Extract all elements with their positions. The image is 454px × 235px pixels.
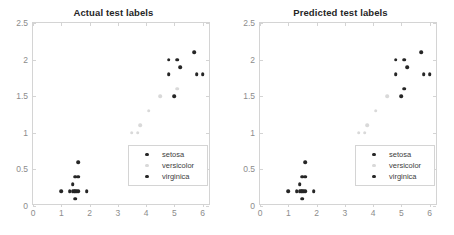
y-tick-mark (33, 169, 36, 170)
y-tick-mark-right (433, 96, 436, 97)
y-tick-label: 1 (250, 128, 255, 138)
data-point-virginica (419, 50, 423, 54)
legend-label: versicolor (387, 161, 421, 170)
y-tick-label: 2 (250, 55, 255, 65)
x-tick-label: 6 (200, 208, 205, 218)
data-point-virginica (195, 72, 199, 76)
data-point-setosa (74, 197, 78, 201)
data-point-virginica (399, 94, 403, 98)
data-point-virginica (172, 94, 176, 98)
y-tick-label: 2.5 (16, 18, 28, 28)
y-tick-label: 2 (23, 55, 28, 65)
y-tick-mark (33, 206, 36, 207)
y-tick-mark (260, 169, 263, 170)
x-tick-label: 2 (314, 208, 319, 218)
data-point-virginica (394, 72, 398, 76)
x-tick-label: 0 (31, 208, 36, 218)
legend[interactable]: setosaversicolorvirginica (128, 145, 208, 186)
x-tick-mark-top (373, 23, 374, 26)
data-point-setosa (303, 175, 307, 179)
y-tick-label: 0.5 (16, 164, 28, 174)
legend-label: setosa (387, 150, 411, 159)
data-point-setosa (286, 190, 290, 194)
data-point-setosa (76, 175, 80, 179)
x-tick-mark (174, 204, 175, 207)
panel-title-predicted: Predicted test labels (227, 7, 454, 18)
data-point-versicolor (357, 131, 361, 135)
x-tick-label: 0 (258, 208, 263, 218)
y-tick-mark-right (206, 206, 209, 207)
legend-dot-icon (145, 164, 149, 168)
x-tick-mark (288, 204, 289, 207)
legend-item-versicolor[interactable]: versicolor (134, 160, 202, 171)
x-tick-label: 3 (342, 208, 347, 218)
y-tick-mark-right (433, 206, 436, 207)
x-tick-mark (61, 204, 62, 207)
legend-marker-icon (361, 164, 387, 168)
y-tick-mark-right (206, 60, 209, 61)
y-tick-label: 0 (23, 201, 28, 211)
x-tick-label: 4 (144, 208, 149, 218)
data-point-versicolor (385, 94, 389, 98)
y-tick-mark-right (206, 23, 209, 24)
data-point-virginica (178, 65, 182, 69)
x-tick-mark-top (430, 23, 431, 26)
axes-predicted: 012345600.511.522.5 setosaversicolorvirg… (259, 22, 437, 205)
data-point-versicolor (374, 109, 378, 113)
y-tick-mark-right (433, 23, 436, 24)
y-tick-mark-right (433, 60, 436, 61)
data-point-virginica (402, 87, 406, 91)
panel-title-actual: Actual test labels (0, 7, 227, 18)
legend-dot-icon (372, 175, 376, 179)
y-tick-mark (33, 60, 36, 61)
data-point-versicolor (363, 131, 367, 135)
legend-item-setosa[interactable]: setosa (361, 149, 429, 160)
legend-item-virginica[interactable]: virginica (361, 171, 429, 182)
legend-label: versicolor (160, 161, 194, 170)
data-point-setosa (298, 182, 302, 186)
x-tick-label: 6 (427, 208, 432, 218)
x-tick-mark-top (345, 23, 346, 26)
x-tick-label: 5 (172, 208, 177, 218)
legend-marker-icon (134, 164, 160, 168)
legend-dot-icon (145, 175, 149, 179)
legend-marker-icon (134, 175, 160, 179)
data-point-setosa (76, 190, 80, 194)
x-tick-mark (146, 204, 147, 207)
x-tick-mark-top (401, 23, 402, 26)
y-tick-label: 1 (23, 128, 28, 138)
x-tick-mark-top (146, 23, 147, 26)
y-tick-mark (33, 133, 36, 134)
x-tick-mark-top (174, 23, 175, 26)
legend-marker-icon (361, 175, 387, 179)
legend-item-versicolor[interactable]: versicolor (361, 160, 429, 171)
data-point-setosa (303, 160, 307, 164)
legend-label: virginica (160, 172, 190, 181)
legend-label: setosa (160, 150, 184, 159)
legend-item-virginica[interactable]: virginica (134, 171, 202, 182)
x-tick-mark (430, 204, 431, 207)
y-tick-mark-right (433, 133, 436, 134)
legend[interactable]: setosaversicolorvirginica (355, 145, 435, 186)
data-point-versicolor (130, 131, 134, 135)
x-tick-mark (401, 204, 402, 207)
x-tick-label: 5 (399, 208, 404, 218)
data-point-setosa (303, 190, 307, 194)
data-point-versicolor (175, 87, 179, 91)
y-tick-mark (33, 96, 36, 97)
data-point-setosa (85, 190, 89, 194)
legend-item-setosa[interactable]: setosa (134, 149, 202, 160)
figure-canvas: Actual test labels 012345600.511.522.5 s… (0, 0, 454, 235)
legend-marker-icon (361, 153, 387, 157)
data-point-virginica (201, 72, 205, 76)
data-point-versicolor (158, 94, 162, 98)
axes-actual: 012345600.511.522.5 setosaversicolorvirg… (32, 22, 210, 205)
x-tick-label: 2 (87, 208, 92, 218)
x-tick-label: 3 (115, 208, 120, 218)
x-tick-mark (345, 204, 346, 207)
y-tick-label: 1.5 (16, 91, 28, 101)
y-tick-mark (260, 133, 263, 134)
y-tick-label: 2.5 (243, 18, 255, 28)
y-tick-mark (260, 60, 263, 61)
data-point-setosa (71, 182, 75, 186)
